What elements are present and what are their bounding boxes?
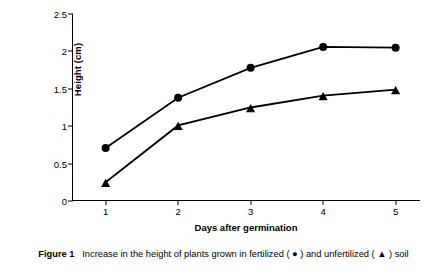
data-point-circle bbox=[247, 64, 255, 72]
series-line-unfertilized bbox=[106, 90, 396, 183]
series-layer bbox=[73, 14, 421, 201]
figure-caption: Figure 1 Increase in the height of plant… bbox=[0, 249, 447, 259]
series-line-fertilized bbox=[106, 47, 396, 148]
figure-caption-text: Increase in the height of plants grown i… bbox=[82, 249, 408, 259]
data-point-circle bbox=[102, 144, 110, 152]
figure-caption-prefix: Figure 1 bbox=[38, 249, 74, 259]
data-point-circle bbox=[319, 43, 327, 51]
data-point-circle bbox=[174, 94, 182, 102]
plot-area: Height (cm) 00.511.522.5 12345 bbox=[72, 14, 420, 201]
x-axis-label: Days after germination bbox=[72, 222, 420, 233]
figure-container: Height (cm) 00.511.522.5 12345 Days afte… bbox=[0, 0, 447, 275]
data-point-triangle bbox=[174, 122, 183, 130]
data-point-circle bbox=[392, 44, 400, 52]
